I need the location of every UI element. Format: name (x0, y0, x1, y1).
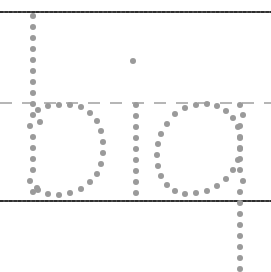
trace-dot (237, 200, 243, 206)
trace-dot (223, 108, 229, 114)
trace-dot (237, 102, 243, 108)
trace-dot (237, 167, 243, 173)
trace-dot (154, 152, 160, 158)
trace-dot (237, 156, 243, 162)
trace-dot (237, 222, 243, 228)
trace-dot (158, 131, 164, 137)
trace-dot (237, 233, 243, 239)
trace-dot (193, 190, 199, 196)
trace-dot (237, 255, 243, 261)
trace-dot (223, 176, 229, 182)
trace-dot (164, 121, 170, 127)
trace-dot (230, 115, 236, 121)
trace-dot (237, 244, 243, 250)
trace-dot (172, 188, 178, 194)
trace-dot (155, 141, 161, 147)
trace-dot (237, 266, 243, 272)
trace-dot (182, 105, 188, 111)
trace-dot (237, 189, 243, 195)
trace-dot (240, 178, 246, 184)
trace-dot (204, 188, 210, 194)
trace-dot (172, 111, 178, 117)
trace-dot (193, 102, 199, 108)
trace-dot (240, 112, 246, 118)
trace-dot (237, 123, 243, 129)
trace-dot (237, 211, 243, 217)
trace-dot (182, 191, 188, 197)
trace-dot (164, 182, 170, 188)
trace-dot (214, 183, 220, 189)
trace-dot (214, 103, 220, 109)
trace-dot (237, 145, 243, 151)
letter-g (0, 0, 271, 272)
trace-dot (237, 134, 243, 140)
trace-dot (204, 101, 210, 107)
trace-dot (230, 167, 236, 173)
trace-dot (155, 163, 161, 169)
trace-dot (158, 173, 164, 179)
handwriting-worksheet (0, 0, 271, 272)
